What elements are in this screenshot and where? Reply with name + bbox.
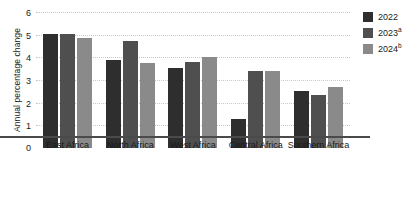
y-axis-tick-label: 6	[26, 9, 31, 18]
legend-item-label: 2022	[378, 12, 398, 22]
bar-group	[287, 12, 350, 148]
plot-area: 0123456	[36, 12, 350, 148]
bar-chart-figure: Annual percentage change 0123456 East Af…	[0, 0, 416, 197]
bar	[106, 60, 121, 148]
y-axis-tick-label: 4	[26, 54, 31, 63]
bar	[328, 87, 343, 148]
legend-item[interactable]: 2022	[363, 12, 402, 22]
y-axis-tick-label: 5	[26, 31, 31, 40]
x-axis-tick-label: Southern Africa	[279, 140, 358, 151]
y-axis-title: Annual percentage change	[12, 10, 22, 150]
y-axis-tick-label: 1	[26, 122, 31, 131]
bar-group	[162, 12, 225, 148]
bar-group	[99, 12, 162, 148]
chart-legend: 20222023a2024b	[363, 12, 402, 54]
legend-item[interactable]: 2023a	[363, 28, 402, 38]
legend-item-label: 2023a	[378, 28, 402, 38]
bar	[43, 34, 58, 148]
legend-swatch	[363, 12, 373, 22]
legend-footnote-marker: b	[398, 42, 402, 49]
legend-footnote-marker: a	[398, 26, 402, 33]
y-axis-tick-label: 2	[26, 99, 31, 108]
bar	[77, 38, 92, 148]
bar	[123, 41, 138, 148]
legend-swatch	[363, 44, 373, 54]
legend-item-label: 2024b	[378, 44, 402, 54]
bar-group	[36, 12, 99, 148]
bar	[202, 57, 217, 148]
legend-item[interactable]: 2024b	[363, 44, 402, 54]
legend-swatch	[363, 28, 373, 38]
bar	[60, 34, 75, 148]
bar-group	[224, 12, 287, 148]
y-axis-tick-label: 3	[26, 77, 31, 86]
x-axis-line	[0, 136, 370, 138]
